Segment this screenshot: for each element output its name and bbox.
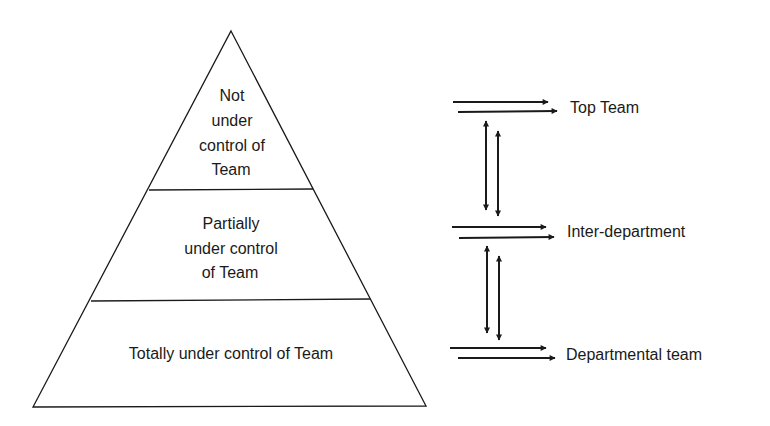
tier-top-line: control of [199,137,265,154]
tier-bottom-line: Totally under control of Team [129,345,333,362]
right-arrow-icon [458,111,557,112]
level-top-team: Top Team [453,99,639,116]
pyramid: Not under control of Team Partially unde… [33,31,426,407]
tier-top: Not under control of Team [199,87,265,178]
tier-middle: Partially under control of Team [184,215,277,281]
level-label: Departmental team [566,346,702,363]
connector-inter-to-departmental [487,246,499,340]
diagram-canvas: Not under control of Team Partially unde… [0,0,770,426]
tier-middle-line: Partially [203,215,260,232]
level-inter-department: Inter-department [452,223,686,240]
tier-top-line: Not [220,87,245,104]
level-label: Top Team [570,99,639,116]
connector-top-to-inter [486,121,498,216]
tier-top-line: Team [211,161,250,178]
tier-middle-line: under control [184,240,277,257]
tier-top-line: under [212,112,254,129]
tier-middle-line: of Team [202,264,259,281]
tier-bottom: Totally under control of Team [129,345,333,362]
tier-divider-upper [149,189,313,190]
level-departmental-team: Departmental team [450,346,702,363]
level-label: Inter-department [567,223,686,240]
right-arrow-icon [459,237,554,238]
tier-divider-lower [91,299,370,301]
